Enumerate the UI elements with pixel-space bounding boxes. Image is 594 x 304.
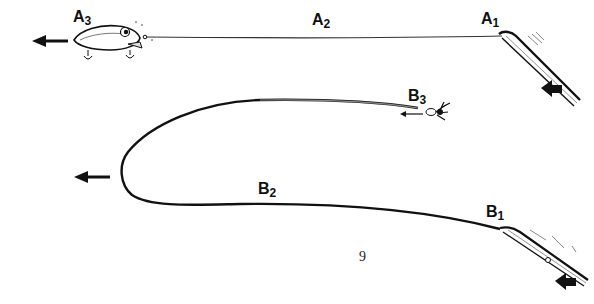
label-b2: B2 xyxy=(258,181,276,199)
label-a1: A1 xyxy=(481,11,499,29)
page-number: 9 xyxy=(359,249,366,265)
label-b3: B3 xyxy=(408,88,426,106)
push-arrow-bottom-icon xyxy=(555,273,576,290)
fly-lure-icon xyxy=(426,102,450,120)
push-arrow-top-icon xyxy=(541,80,562,97)
casting-diagram xyxy=(0,0,594,304)
arrow-left-loop-icon xyxy=(74,171,110,183)
rod-tip-top-icon xyxy=(499,32,580,106)
fishing-line-straight xyxy=(147,36,502,38)
rod-tip-bottom-icon xyxy=(500,227,588,286)
arrow-left-icon xyxy=(32,35,68,47)
label-a2: A2 xyxy=(312,12,330,30)
label-a3: A3 xyxy=(73,9,91,27)
label-b1: B1 xyxy=(486,204,504,222)
arrow-left-small-icon xyxy=(400,111,423,117)
